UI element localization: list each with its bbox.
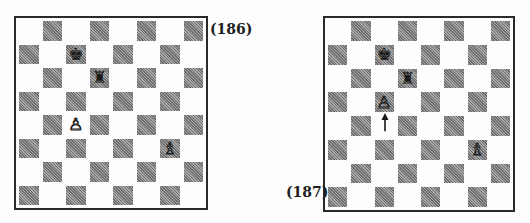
square-e5 <box>111 90 135 114</box>
square-f3 <box>442 138 465 162</box>
diagram-label-186: (186) <box>210 21 252 37</box>
square-b3 <box>41 137 65 161</box>
square-e7 <box>111 43 135 67</box>
square-d1 <box>396 185 419 209</box>
square-f5 <box>135 90 159 114</box>
black-king-icon: ♚ <box>68 46 83 63</box>
board-grid: ♚♜♙♗ <box>17 19 205 207</box>
square-g3: ♗ <box>158 137 182 161</box>
square-e3 <box>419 138 442 162</box>
square-h8 <box>489 19 512 43</box>
square-f1 <box>442 185 465 209</box>
square-g5 <box>466 90 489 114</box>
arrow-up-icon <box>380 113 390 132</box>
square-b5 <box>41 90 65 114</box>
square-h4 <box>182 113 206 137</box>
square-h1 <box>182 184 206 208</box>
square-a2 <box>17 160 41 184</box>
square-e4 <box>111 113 135 137</box>
white-bishop-icon: ♗ <box>162 140 177 157</box>
square-f8 <box>442 19 465 43</box>
square-c6 <box>64 66 88 90</box>
square-b3 <box>349 138 372 162</box>
square-d6: ♜ <box>396 67 419 91</box>
square-e4 <box>419 114 442 138</box>
square-a6 <box>17 66 41 90</box>
square-b4 <box>349 114 372 138</box>
square-b6 <box>41 66 65 90</box>
square-a3 <box>326 138 349 162</box>
square-d4 <box>396 114 419 138</box>
square-c2 <box>64 160 88 184</box>
square-d5 <box>396 90 419 114</box>
square-b7 <box>41 43 65 67</box>
square-g6 <box>466 67 489 91</box>
square-g8 <box>466 19 489 43</box>
square-f3 <box>135 137 159 161</box>
square-a7 <box>17 43 41 67</box>
square-f1 <box>135 184 159 208</box>
square-g7 <box>466 43 489 67</box>
square-f6 <box>135 66 159 90</box>
square-a5 <box>17 90 41 114</box>
square-d7 <box>88 43 112 67</box>
square-h3 <box>489 138 512 162</box>
square-g2 <box>466 162 489 186</box>
square-b8 <box>41 19 65 43</box>
square-g4 <box>158 113 182 137</box>
square-h4 <box>489 114 512 138</box>
square-b7 <box>349 43 372 67</box>
square-a8 <box>326 19 349 43</box>
black-rook-icon: ♜ <box>92 69 107 86</box>
square-e1 <box>111 184 135 208</box>
square-e5 <box>419 90 442 114</box>
square-c8 <box>373 19 396 43</box>
square-d8 <box>88 19 112 43</box>
square-c2 <box>373 162 396 186</box>
square-a8 <box>17 19 41 43</box>
square-c3 <box>373 138 396 162</box>
square-f4 <box>135 113 159 137</box>
square-b4 <box>41 113 65 137</box>
square-h5 <box>182 90 206 114</box>
chess-board-186: ♚♜♙♗ <box>14 16 208 210</box>
square-c1 <box>64 184 88 208</box>
square-a5 <box>326 90 349 114</box>
square-a6 <box>326 67 349 91</box>
square-g2 <box>158 160 182 184</box>
square-b5 <box>349 90 372 114</box>
square-f7 <box>442 43 465 67</box>
square-e7 <box>419 43 442 67</box>
square-b2 <box>41 160 65 184</box>
square-d7 <box>396 43 419 67</box>
square-h7 <box>182 43 206 67</box>
board-grid: ♚♜♙♗ <box>326 19 512 209</box>
square-c7: ♚ <box>373 43 396 67</box>
black-king-icon: ♚ <box>377 46 392 63</box>
square-f8 <box>135 19 159 43</box>
square-g6 <box>158 66 182 90</box>
diagram-label-187: (187) <box>286 184 328 200</box>
black-rook-icon: ♜ <box>400 70 415 87</box>
square-d2 <box>396 162 419 186</box>
square-d6: ♜ <box>88 66 112 90</box>
square-b8 <box>349 19 372 43</box>
square-c8 <box>64 19 88 43</box>
square-e8 <box>111 19 135 43</box>
square-h1 <box>489 185 512 209</box>
square-f2 <box>442 162 465 186</box>
square-e8 <box>419 19 442 43</box>
square-a3 <box>17 137 41 161</box>
square-c3 <box>64 137 88 161</box>
white-bishop-icon: ♗ <box>470 141 485 158</box>
square-c1 <box>373 185 396 209</box>
square-a7 <box>326 43 349 67</box>
square-c7: ♚ <box>64 43 88 67</box>
square-d2 <box>88 160 112 184</box>
square-h2 <box>489 162 512 186</box>
square-f7 <box>135 43 159 67</box>
square-h3 <box>182 137 206 161</box>
square-e2 <box>419 162 442 186</box>
square-g8 <box>158 19 182 43</box>
white-pawn-icon: ♙ <box>377 94 392 111</box>
